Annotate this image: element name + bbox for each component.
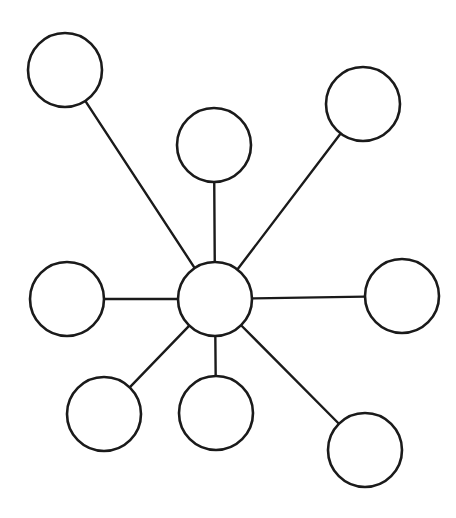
node-right: [365, 259, 439, 333]
node-top-right: [326, 67, 400, 141]
edge-hub-to-top-center: [214, 182, 215, 262]
edge-hub-to-top-left: [85, 101, 194, 268]
edge-hub-to-bottom-left: [130, 326, 190, 388]
edge-hub-to-top-right: [237, 133, 340, 269]
node-bottom-left: [67, 377, 141, 451]
node-top-left: [28, 33, 102, 107]
edge-hub-to-right: [252, 297, 365, 299]
nodes-group: [28, 33, 439, 487]
node-left: [30, 262, 104, 336]
node-bottom-center: [179, 376, 253, 450]
node-bottom-right: [328, 413, 402, 487]
hub-node: [178, 262, 252, 336]
node-top-center: [177, 108, 251, 182]
edge-hub-to-bottom-right: [241, 325, 339, 424]
star-network-diagram: [0, 0, 456, 518]
